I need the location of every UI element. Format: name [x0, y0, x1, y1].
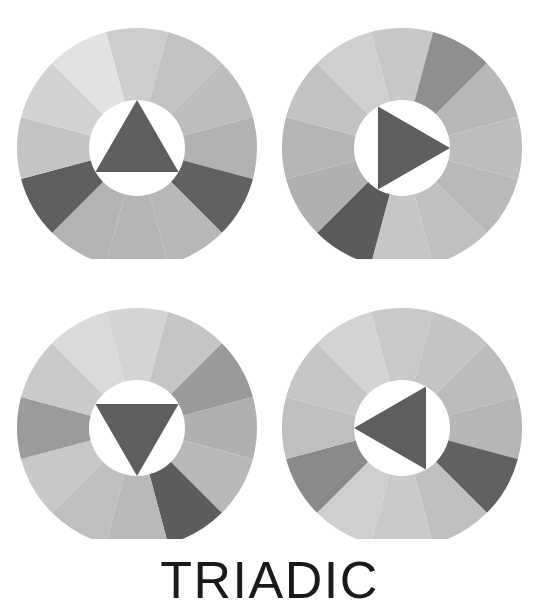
triadic-color-wheel-figure: TRIADIC: [0, 0, 539, 605]
figure-caption: TRIADIC: [0, 552, 539, 605]
color-wheel-grid: [0, 0, 539, 552]
caption-label: TRIADIC: [160, 552, 379, 605]
color-wheel-bottom-left-svg: [14, 294, 259, 539]
color-wheel-top-left[interactable]: [14, 14, 259, 259]
color-wheel-top-right[interactable]: [279, 14, 524, 259]
color-wheel-bottom-right-svg: [279, 294, 524, 539]
color-wheel-top-right-svg: [279, 14, 524, 259]
color-wheel-bottom-right[interactable]: [279, 294, 524, 539]
color-wheel-bottom-left[interactable]: [14, 294, 259, 539]
color-wheel-top-left-svg: [14, 14, 259, 259]
